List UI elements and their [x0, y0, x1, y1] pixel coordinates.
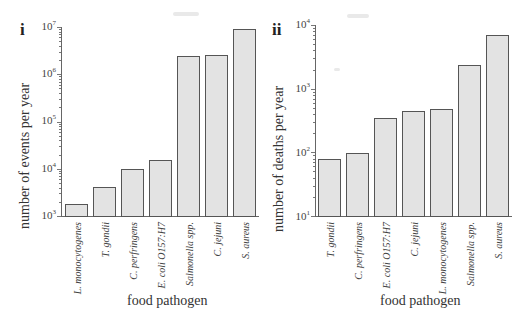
y-tick-mark: [59, 124, 61, 125]
x-axis-label-i: food pathogen: [127, 293, 207, 309]
y-tick-mark: [59, 155, 61, 156]
bar-c-perfringens: [346, 153, 369, 217]
y-tick-mark: [313, 95, 315, 96]
x-tick-label: C. jejuni: [212, 222, 223, 256]
y-tick-mark: [59, 193, 61, 194]
y-tick-mark: [311, 216, 315, 217]
x-tick-label: E. coli O157:H7: [381, 222, 392, 288]
y-tick-mark: [313, 50, 315, 51]
panel-label-i: i: [20, 20, 25, 40]
y-tick-mark: [59, 82, 61, 83]
scan-artifact: [173, 12, 199, 16]
x-tick-label: S. aureus: [493, 222, 504, 259]
y-tick-mark: [59, 132, 61, 133]
y-tick-mark: [313, 133, 315, 134]
y-tick-mark: [59, 146, 61, 147]
x-tick-label: T. gondii: [325, 222, 336, 257]
y-tick-mark: [313, 31, 315, 32]
y-tick-mark: [59, 176, 61, 177]
y-tick-1e6: 106: [28, 66, 56, 79]
y-tick-1e4: 104: [282, 17, 310, 30]
panel-label-ii: ii: [272, 20, 281, 40]
y-tick-mark: [57, 169, 61, 170]
y-tick-mark: [313, 103, 315, 104]
y-tick-mark: [57, 216, 61, 217]
x-tick-label: Salmonella spp.: [184, 222, 195, 286]
bar-l-monocytogenes: [430, 109, 453, 217]
y-tick-mark: [313, 92, 315, 93]
x-tick-label: L. monocytogenes: [72, 222, 83, 294]
bar-e-coli: [149, 160, 172, 217]
y-tick-mark: [311, 152, 315, 153]
y-tick-mark: [313, 178, 315, 179]
bar-salmonella: [458, 65, 481, 217]
bar-c-perfringens: [121, 169, 144, 217]
y-tick-mark: [59, 126, 61, 127]
y-tick-mark: [59, 183, 61, 184]
y-tick-mark: [59, 173, 61, 174]
y-tick-mark: [59, 179, 61, 180]
x-tick-label: Salmonella spp.: [465, 222, 476, 286]
y-tick-mark: [59, 37, 61, 38]
bar-salmonella: [177, 56, 200, 217]
y-tick-mark: [59, 93, 61, 94]
y-tick-mark: [313, 70, 315, 71]
bar-c-jejuni: [402, 111, 425, 217]
y-tick-mark: [313, 162, 315, 163]
y-tick-mark: [59, 34, 61, 35]
y-tick-mark: [59, 188, 61, 189]
y-tick-mark: [313, 166, 315, 167]
bar-e-coli: [374, 118, 397, 217]
y-axis-ii: [315, 25, 316, 217]
y-tick-mark: [313, 159, 315, 160]
y-tick-mark: [59, 60, 61, 61]
y-tick-mark: [59, 85, 61, 86]
y-tick-mark: [59, 140, 61, 141]
y-tick-mark: [59, 129, 61, 130]
bar-t-gondii: [93, 187, 116, 217]
y-tick-mark: [59, 79, 61, 80]
x-tick-label: C. perfringens: [353, 222, 364, 280]
y-tick-mark: [59, 29, 61, 30]
y-tick-mark: [313, 108, 315, 109]
y-tick-mark: [59, 46, 61, 47]
y-tick-1e5: 105: [28, 113, 56, 126]
y-tick-mark: [313, 171, 315, 172]
y-tick-mark: [313, 122, 315, 123]
y-tick-mark: [57, 74, 61, 75]
y-tick-mark: [59, 52, 61, 53]
y-tick-mark: [313, 28, 315, 29]
y-tick-mark: [313, 114, 315, 115]
y-tick-mark: [59, 171, 61, 172]
y-tick-1e3: 103: [28, 208, 56, 221]
y-tick-mark: [311, 25, 315, 26]
y-tick-mark: [313, 99, 315, 100]
y-tick-mark: [57, 122, 61, 123]
y-tick-mark: [313, 186, 315, 187]
x-tick-label: C. perfringens: [128, 222, 139, 280]
x-tick-label: L. monocytogenes: [437, 222, 448, 294]
y-tick-mark: [59, 107, 61, 108]
y-tick-mark: [313, 155, 315, 156]
y-tick-mark: [59, 88, 61, 89]
y-tick-mark: [313, 58, 315, 59]
y-tick-mark: [313, 35, 315, 36]
bar-s-aureus: [486, 35, 509, 217]
y-tick-1e3: 103: [282, 81, 310, 94]
bar-t-gondii: [318, 159, 341, 217]
scan-artifact: [347, 14, 369, 18]
y-tick-mark: [59, 76, 61, 77]
x-tick-label: C. jejuni: [409, 222, 420, 256]
y-tick-mark: [311, 89, 315, 90]
y-tick-1e7: 107: [28, 19, 56, 32]
y-tick-mark: [57, 27, 61, 28]
bar-c-jejuni: [205, 55, 228, 217]
bar-s-aureus: [233, 29, 256, 217]
y-tick-1e2: 102: [282, 145, 310, 158]
y-tick-mark: [59, 41, 61, 42]
y-tick-mark: [59, 99, 61, 100]
x-tick-label: E. coli O157:H7: [156, 222, 167, 288]
y-tick-mark: [59, 136, 61, 137]
y-tick-mark: [59, 202, 61, 203]
y-tick-mark: [313, 44, 315, 45]
